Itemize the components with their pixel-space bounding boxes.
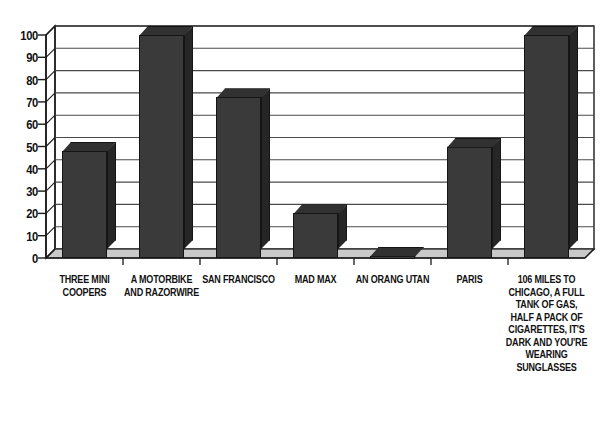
bar-chart: 1009080706050403020100 THREE MINI COOPER… [0, 0, 613, 426]
x-axis-category-labels: THREE MINI COOPERSA MOTORBIKE AND RAZORW… [0, 0, 613, 426]
x-axis-category-label: THREE MINI COOPERS [44, 274, 126, 299]
x-axis-category-label: AN ORANG UTAN [352, 274, 434, 287]
x-axis-category-label: A MOTORBIKE AND RAZORWIRE [121, 274, 203, 299]
x-axis-category-label: MAD MAX [275, 274, 357, 287]
x-axis-category-label: PARIS [429, 274, 511, 287]
x-axis-category-label: SAN FRANCISCO [198, 274, 280, 287]
x-axis-category-label: 106 MILES TO CHICAGO, A FULL TANK OF GAS… [506, 274, 588, 374]
